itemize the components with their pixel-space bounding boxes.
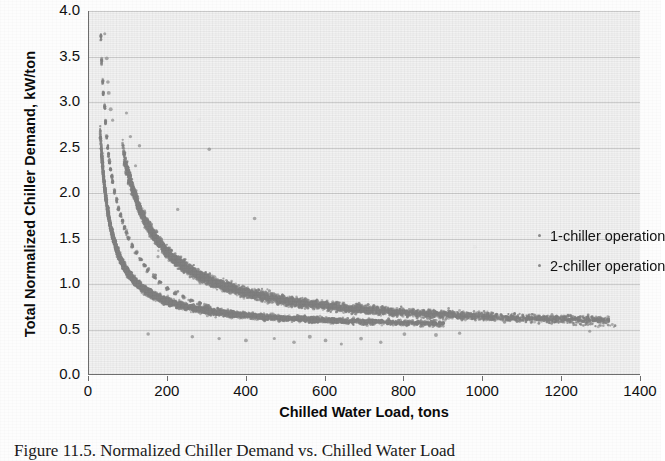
x-tick-400: 400 [233,382,258,399]
y-tick-2.0: 2.0 [0,183,80,200]
x-axis-title: Chilled Water Load, tons [88,404,640,420]
dot-marker-icon [538,264,541,267]
x-tick-mark [246,376,247,381]
x-tick-1200: 1200 [544,382,577,399]
legend-label-1-chiller: 1-chiller operation [550,228,665,244]
legend-label-2-chiller: 2-chiller operation [550,258,665,274]
figure-caption: Figure 11.5. Normalized Chiller Demand v… [14,441,654,461]
chart-legend: 1-chiller operation 2-chiller operation [538,225,665,285]
x-tick-0: 0 [84,382,92,399]
legend-item-1-chiller[interactable]: 1-chiller operation [538,225,665,246]
plot-area: 1-chiller operation 2-chiller operation [88,11,640,375]
x-tick-mark [167,376,168,381]
x-tick-mark [325,376,326,381]
x-tick-200: 200 [154,382,179,399]
y-tick-0.5: 0.5 [0,320,80,337]
y-tick-0.0: 0.0 [0,365,80,382]
y-tick-1.5: 1.5 [0,229,80,246]
y-tick-3.0: 3.0 [0,92,80,109]
y-tick-1.0: 1.0 [0,274,80,291]
legend-item-2-chiller[interactable]: 2-chiller operation [538,255,665,276]
scatter-plot-canvas [89,11,641,375]
x-tick-mark [640,376,641,381]
x-tick-mark [482,376,483,381]
dot-marker-icon [538,234,541,237]
y-tick-4.0: 4.0 [0,1,80,18]
x-tick-mark [88,376,89,381]
y-tick-3.5: 3.5 [0,47,80,64]
x-tick-600: 600 [312,382,337,399]
x-tick-1400: 1400 [623,382,656,399]
x-tick-mark [561,376,562,381]
x-tick-mark [403,376,404,381]
x-tick-800: 800 [391,382,416,399]
y-tick-2.5: 2.5 [0,138,80,155]
x-tick-1000: 1000 [466,382,499,399]
